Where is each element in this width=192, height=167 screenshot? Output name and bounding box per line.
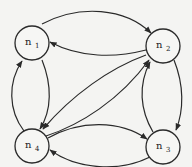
edge-n4-to-n3 xyxy=(48,125,147,139)
node-n2: n2 xyxy=(146,29,180,63)
node-circle xyxy=(15,26,49,60)
node-circle xyxy=(146,130,180,164)
node-label: n xyxy=(25,36,32,47)
node-subscript: 4 xyxy=(35,145,40,153)
node-n4: n4 xyxy=(15,129,49,163)
edge-n2-to-n3 xyxy=(174,60,182,130)
nodes-layer: n1n2n3n4 xyxy=(15,26,180,164)
edge-n3-to-n4 xyxy=(50,150,150,167)
edge-n4-to-n1 xyxy=(12,61,24,131)
edge-n3-to-n2 xyxy=(142,62,153,132)
edge-n2-to-n1 xyxy=(50,42,146,55)
graph-diagram: n1n2n3n4 xyxy=(0,0,192,167)
node-subscript: 3 xyxy=(166,146,170,154)
node-circle xyxy=(15,129,49,163)
node-label: n xyxy=(156,39,163,50)
node-n3: n3 xyxy=(146,130,180,164)
node-n1: n1 xyxy=(15,26,49,60)
node-subscript: 1 xyxy=(35,42,39,50)
node-subscript: 2 xyxy=(166,45,170,53)
node-circle xyxy=(146,29,180,63)
node-label: n xyxy=(156,140,163,151)
edge-n1-to-n2 xyxy=(42,11,151,33)
edge-n2-to-n4 xyxy=(43,55,146,129)
edge-n1-to-n4 xyxy=(40,60,49,129)
node-label: n xyxy=(25,139,32,150)
graph-canvas: n1n2n3n4 xyxy=(0,0,192,167)
